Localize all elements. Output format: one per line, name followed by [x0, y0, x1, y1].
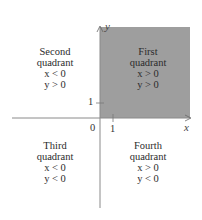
second-quadrant-label: Second quadrant x < 0 y > 0: [30, 46, 80, 90]
origin-label: 0: [90, 122, 95, 133]
y-condition: y > 0: [123, 79, 173, 90]
x-condition: x < 0: [30, 162, 80, 173]
quadrant-name: Third: [30, 140, 80, 151]
coordinate-plane: y x 0 1 1 First quadrant x > 0 y > 0 Sec…: [0, 0, 202, 220]
x-condition: x > 0: [123, 162, 173, 173]
y-condition: y > 0: [30, 79, 80, 90]
quadrant-word: quadrant: [30, 57, 80, 68]
first-quadrant-label: First quadrant x > 0 y > 0: [123, 46, 173, 90]
quadrant-word: quadrant: [30, 151, 80, 162]
x-condition: x < 0: [30, 68, 80, 79]
quadrant-word: quadrant: [123, 57, 173, 68]
quadrant-name: First: [123, 46, 173, 57]
quadrant-name: Fourth: [123, 140, 173, 151]
axes: [0, 0, 202, 220]
quadrant-word: quadrant: [123, 151, 173, 162]
x-axis-label: x: [184, 121, 189, 133]
third-quadrant-label: Third quadrant x < 0 y < 0: [30, 140, 80, 184]
x-condition: x > 0: [123, 68, 173, 79]
y-condition: y < 0: [30, 173, 80, 184]
y-axis-label: y: [105, 20, 110, 32]
x-tick-label: 1: [110, 123, 115, 134]
y-condition: y < 0: [123, 173, 173, 184]
fourth-quadrant-label: Fourth quadrant x > 0 y < 0: [123, 140, 173, 184]
y-tick-label: 1: [88, 96, 93, 107]
quadrant-name: Second: [30, 46, 80, 57]
